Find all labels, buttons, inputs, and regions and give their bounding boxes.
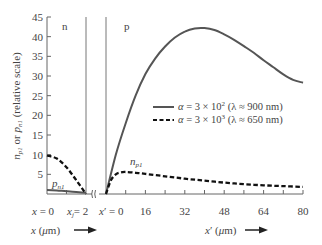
xprime-axis-label: x′ (μm) [204, 224, 237, 237]
x-tick-label: 64 [258, 205, 270, 217]
y-tick-label: 15 [32, 129, 44, 141]
y-tick-label: 45 [32, 11, 44, 23]
pn1-annotation: pn1 [51, 177, 65, 191]
np1-annotation: np1 [130, 155, 143, 169]
y-tick-label: 25 [32, 90, 44, 102]
y-tick-label: 35 [32, 50, 44, 62]
x-tick-label: 48 [219, 205, 231, 217]
xj-tick-label: xj= 2 [66, 205, 88, 219]
x-axis-arrow-icon [74, 227, 97, 234]
y-tick-label: 5 [38, 168, 44, 180]
legend-dashed-text: α = 3 × 103 (λ ≈ 650 nm) [178, 113, 283, 126]
legend: α = 3 × 102 (λ ≈ 900 nm) α = 3 × 103 (λ … [153, 100, 283, 126]
x-axis-label: x (μm) [30, 224, 60, 237]
x0-tick-label: x = 0 [31, 205, 55, 217]
chart: 510152025303540451632486480 n p pn1 np1 … [0, 0, 322, 245]
region-p-label: p [124, 20, 130, 32]
region-n-label: n [62, 20, 68, 32]
y-axis-label: np1 or pn1 (relative scale) [10, 52, 24, 160]
axis-break-icon [92, 190, 96, 198]
xprime-axis-arrow-icon [245, 227, 268, 234]
y-tick-label: 10 [32, 149, 44, 161]
y-tick-label: 20 [32, 109, 44, 121]
y-tick-label: 30 [32, 70, 44, 82]
x-tick-label: 16 [140, 205, 152, 217]
y-tick-label: 40 [32, 31, 44, 43]
x-tick-label: 32 [179, 205, 190, 217]
xp0-tick-label: x′ = 0 [98, 205, 124, 217]
x-tick-label: 80 [298, 205, 310, 217]
legend-solid-text: α = 3 × 102 (λ ≈ 900 nm) [178, 100, 283, 113]
